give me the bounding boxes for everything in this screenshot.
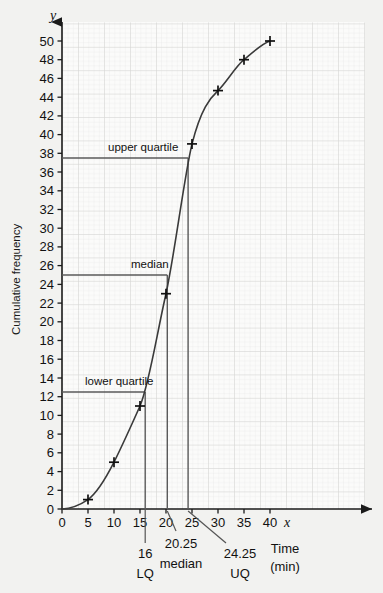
y-tick-label: 6 — [47, 445, 54, 460]
lower-quartile-label: lower quartile — [85, 375, 153, 387]
y-tick-label: 14 — [40, 371, 54, 386]
y-tick-label: 48 — [40, 52, 54, 67]
y-tick-label: 0 — [47, 502, 54, 517]
x-tick-label: 20 — [159, 515, 173, 530]
median-label: median — [131, 258, 169, 270]
lq-value: 16 — [138, 546, 152, 561]
y-tick-label: 20 — [40, 314, 54, 329]
x-tick-label: 40 — [263, 515, 277, 530]
y-tick-label: 10 — [40, 408, 54, 423]
y-tick-label: 34 — [40, 183, 54, 198]
x-axis-tick-labels: 0 5 10 15 20 25 30 35 40 — [58, 515, 277, 530]
uq-name: UQ — [230, 566, 250, 581]
y-tick-label: 32 — [40, 202, 54, 217]
x-tick-label: 10 — [107, 515, 121, 530]
y-tick-label: 4 — [47, 464, 54, 479]
y-tick-label: 24 — [40, 277, 54, 292]
x-tick-label: 30 — [211, 515, 225, 530]
y-tick-label: 38 — [40, 146, 54, 161]
x-tick-label: 0 — [58, 515, 65, 530]
y-tick-label: 26 — [40, 258, 54, 273]
y-axis-title: Cumulative frequency — [10, 224, 22, 335]
x-tick-label: 25 — [185, 515, 199, 530]
y-tick-label: 8 — [47, 427, 54, 442]
y-tick-label: 30 — [40, 221, 54, 236]
y-tick-label: 42 — [40, 108, 54, 123]
x-axis-title-line1: Time — [271, 541, 299, 556]
y-tick-label: 12 — [40, 389, 54, 404]
y-tick-label: 22 — [40, 296, 54, 311]
cumulative-frequency-chart: 0 2 4 6 8 10 12 14 16 18 20 22 24 26 28 … — [0, 0, 383, 593]
y-tick-label: 28 — [40, 239, 54, 254]
y-tick-label: 40 — [40, 127, 54, 142]
lq-name: LQ — [137, 566, 154, 581]
y-tick-label: 2 — [47, 483, 54, 498]
y-tick-label: 44 — [40, 90, 54, 105]
y-tick-label: 18 — [40, 333, 54, 348]
y-tick-label: 46 — [40, 71, 54, 86]
y-axis-letter: y — [48, 8, 57, 23]
median-value: 20.25 — [165, 536, 198, 551]
uq-value: 24.25 — [224, 546, 257, 561]
y-tick-label: 16 — [40, 352, 54, 367]
y-tick-label: 36 — [40, 165, 54, 180]
chart-container: 0 2 4 6 8 10 12 14 16 18 20 22 24 26 28 … — [0, 0, 383, 593]
y-tick-label: 50 — [40, 34, 54, 49]
x-tick-label: 5 — [84, 515, 91, 530]
x-tick-label: 35 — [237, 515, 251, 530]
x-axis-letter: x — [283, 515, 291, 530]
x-axis-title-line2: (min) — [270, 559, 300, 574]
upper-quartile-label: upper quartile — [108, 141, 178, 153]
median-name: median — [160, 556, 203, 571]
